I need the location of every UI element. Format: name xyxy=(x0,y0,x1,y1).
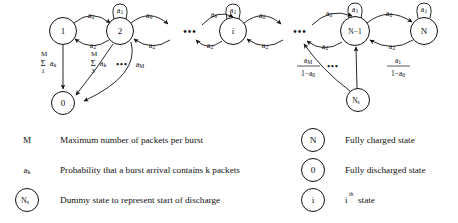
sum-upper-1: M xyxy=(41,50,48,58)
diagram-page: ••• ••• 1 2 i N−1 N 0 Ns a0 a2 a1 a0 a2 … xyxy=(0,0,458,223)
legend-right-desc-1: Fully discharged state xyxy=(345,165,425,175)
state-Ns-label: Ns xyxy=(352,96,360,105)
legend-right-key-2: i xyxy=(312,195,315,205)
sum-lower-1: 1 xyxy=(41,67,45,75)
legend-right-desc-2: i th state xyxy=(345,191,375,205)
label-a0-1: a0 xyxy=(88,11,95,20)
sum-upper-2: M xyxy=(91,50,98,58)
label-a2-2: a2 xyxy=(149,41,156,50)
state-i-label: i xyxy=(232,26,235,36)
label-a0-3: a0 xyxy=(211,10,218,19)
label-a0-4: a0 xyxy=(259,11,266,20)
legend-i-th-base: i xyxy=(345,195,348,205)
legend-left-desc-2: Dummy state to represent start of discha… xyxy=(60,195,220,205)
label-sum-3-to-M-ak: M Σ 3 ak xyxy=(90,50,106,75)
legend-right-key-0: N xyxy=(310,135,317,145)
legend-right-desc-0: Fully charged state xyxy=(345,135,415,145)
legend-i-th-sup: th xyxy=(349,191,354,197)
ellipsis-4: ••• xyxy=(327,62,338,71)
label-a1-i: a1 xyxy=(230,6,237,15)
markov-chain-diagram: ••• ••• 1 2 i N−1 N 0 Ns a0 a2 a1 a0 a2 … xyxy=(0,0,458,223)
label-a2-3: a2 xyxy=(207,41,214,50)
aM-numerator: aM xyxy=(304,56,312,65)
label-a2-4: a2 xyxy=(262,41,269,50)
label-a2-6: a2 xyxy=(389,42,396,51)
legend-left-key-1: ak xyxy=(24,165,31,175)
label-a1-N: a1 xyxy=(421,5,428,14)
ellipsis-3: ••• xyxy=(116,60,127,69)
label-sum-1-to-M-ak: M Σ 1 ak xyxy=(40,50,56,75)
state-N-label: N xyxy=(421,26,428,36)
label-a0-6: a0 xyxy=(386,9,393,18)
label-a1-Nm1: a1 xyxy=(352,5,359,14)
label-a1-2: a1 xyxy=(117,6,124,15)
legend-left-key-0: M xyxy=(23,135,31,145)
legend-left-desc-0: Maximum number of packets per burst xyxy=(60,135,204,145)
label-a0-2: a0 xyxy=(146,11,153,20)
ellipsis-2: ••• xyxy=(293,26,307,37)
edge-Ns-to-Nm1 xyxy=(356,47,357,89)
legend-left-desc-1: Probability that a burst arrival contain… xyxy=(60,165,240,175)
state-1-label: 1 xyxy=(61,26,66,36)
label-aM-over-one-minus-a0: aM 1−a0 xyxy=(297,56,320,78)
aM-denominator: 1−a0 xyxy=(301,69,315,78)
sum-term-2: ak xyxy=(100,59,107,68)
state-N-minus-1-label: N−1 xyxy=(348,27,362,36)
state-0-label: 0 xyxy=(61,98,66,108)
label-a2-1: a2 xyxy=(90,41,97,50)
edge-prev-to-i xyxy=(202,14,233,25)
label-aM: aM xyxy=(136,60,145,69)
label-a1-over-one-minus-a0: a1 1−a0 xyxy=(387,56,410,78)
label-a2-5: a2 xyxy=(322,42,329,51)
legend-left-key-2: Ns xyxy=(21,196,29,205)
a1-denominator: 1−a0 xyxy=(391,69,405,78)
sum-term-1: ak xyxy=(50,59,57,68)
ellipsis-1: ••• xyxy=(183,26,197,37)
a1-numerator: a1 xyxy=(395,56,401,65)
legend-right-key-1: 0 xyxy=(311,165,316,175)
sum-lower-2: 3 xyxy=(91,67,95,75)
state-2-label: 2 xyxy=(118,26,123,36)
legend-i-th-tail: state xyxy=(358,195,375,205)
label-a0-5: a0 xyxy=(326,9,333,18)
